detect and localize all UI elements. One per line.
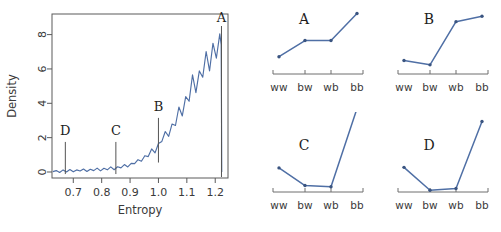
category-label-bb: bb [475, 199, 489, 211]
category-label-bb: bb [475, 81, 489, 93]
plot-frame [52, 14, 228, 178]
profile-line [404, 122, 482, 191]
x-axis-title: Entropy [118, 203, 163, 217]
x-axis-tick-label: 0.9 [121, 186, 139, 199]
density-curve [53, 34, 222, 173]
marker-label-b: B [154, 99, 164, 114]
profile-line [279, 14, 357, 57]
data-point [402, 59, 405, 62]
x-axis-tick-label: 1.2 [206, 186, 224, 199]
marker-label-c: C [111, 123, 121, 138]
category-label-ww: ww [270, 81, 288, 93]
category-label-wb: wb [323, 199, 339, 211]
category-label-ww: ww [395, 199, 413, 211]
y-axis-tick-label: 4 [37, 100, 50, 107]
profile-chart-d: wwbwwbbbD [377, 112, 501, 222]
panel-letter-a: A [298, 11, 310, 27]
data-point [402, 166, 405, 169]
profile-line [404, 16, 482, 65]
category-label-bb: bb [350, 81, 364, 93]
profile-chart-a: wwbwwbbbA [252, 0, 378, 104]
category-label-ww: ww [270, 199, 288, 211]
x-axis-tick-label: 1.1 [178, 186, 196, 199]
category-label-bw: bw [422, 199, 438, 211]
profile-panel-b: wwbwwbbbB [377, 0, 501, 104]
profile-line [279, 112, 357, 187]
data-point [303, 39, 306, 42]
category-label-bw: bw [297, 199, 313, 211]
panel-letter-b: B [424, 11, 434, 27]
profile-panel-d: wwbwwbbbD [377, 112, 501, 222]
category-label-wb: wb [448, 199, 464, 211]
x-axis-tick-label: 0.7 [65, 186, 83, 199]
profile-panel-c: wwbwwbbbC [252, 112, 378, 222]
y-axis-tick-label: 6 [37, 65, 50, 72]
data-point [428, 189, 431, 192]
y-axis-tick-label: 2 [37, 134, 50, 141]
marker-label-a: A [216, 10, 227, 25]
category-label-bw: bw [297, 81, 313, 93]
x-axis-tick-label: 0.8 [93, 186, 111, 199]
data-point [454, 187, 457, 190]
profile-chart-c: wwbwwbbbC [252, 112, 378, 222]
x-axis-tick-label: 1.0 [150, 186, 168, 199]
data-point [454, 20, 457, 23]
main-density-panel: 024680.70.80.91.01.11.2EntropyDensityDCB… [0, 0, 240, 232]
figure-root: 024680.70.80.91.01.11.2EntropyDensityDCB… [0, 0, 501, 232]
data-point [428, 63, 431, 66]
entropy-density-chart: 024680.70.80.91.01.11.2EntropyDensityDCB… [0, 0, 240, 232]
marker-label-d: D [60, 123, 70, 138]
data-point [480, 15, 483, 18]
category-label-wb: wb [448, 81, 464, 93]
y-axis-tick-label: 8 [37, 31, 50, 38]
profile-chart-b: wwbwwbbbB [377, 0, 501, 104]
profile-panel-a: wwbwwbbbA [252, 0, 378, 104]
panel-letter-d: D [423, 137, 434, 153]
category-label-wb: wb [323, 81, 339, 93]
data-point [329, 39, 332, 42]
panel-letter-c: C [299, 137, 310, 153]
data-point [277, 55, 280, 58]
y-axis-tick-label: 0 [37, 168, 50, 175]
category-label-bb: bb [350, 199, 364, 211]
data-point [329, 185, 332, 188]
data-point [355, 12, 358, 15]
data-point [303, 184, 306, 187]
category-label-bw: bw [422, 81, 438, 93]
data-point [277, 166, 280, 169]
category-label-ww: ww [395, 81, 413, 93]
data-point [480, 120, 483, 123]
y-axis-title: Density [5, 74, 19, 118]
